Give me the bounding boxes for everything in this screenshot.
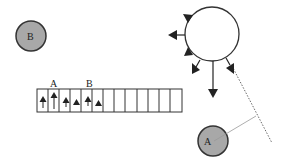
strip-label-b: B (86, 78, 93, 89)
dashed-trajectory-line (232, 66, 272, 143)
ball-a: A (198, 116, 256, 156)
cell-strip: A B (37, 78, 182, 112)
strip-label-a: A (50, 78, 58, 89)
up-arrow-icon (85, 96, 92, 106)
up-arrow-icon (40, 96, 47, 108)
diagonal-arrow-icon (226, 58, 234, 74)
up-arrow-icon (51, 92, 58, 109)
left-arrow-icon (168, 30, 185, 40)
diagonal-arrow-icon (192, 60, 200, 74)
ball-a-label: A (204, 136, 212, 147)
up-arrow-icon (95, 100, 102, 106)
up-arrow-icon (63, 97, 70, 107)
diagram-canvas: B A A B (0, 0, 287, 167)
ball-b: B (16, 21, 46, 51)
ball-b-label: B (27, 31, 34, 42)
down-arrow-icon (208, 61, 218, 98)
up-arrow-icon (73, 99, 80, 105)
big-circle (168, 7, 239, 98)
